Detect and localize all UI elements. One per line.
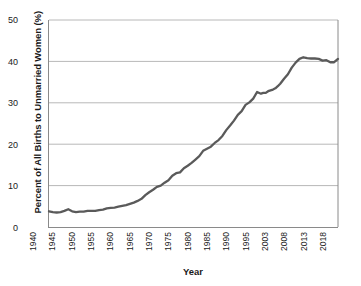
plot-area (48, 20, 338, 228)
y-tick-label: 40 (0, 57, 18, 67)
y-tick-label: 10 (0, 181, 18, 191)
data-line-0 (49, 57, 338, 212)
chart-container: Percent of All Births to Unmarried Women… (0, 0, 361, 286)
y-tick-label: 50 (0, 15, 18, 25)
y-tick-label: 20 (0, 140, 18, 150)
data-series-layer (49, 20, 338, 227)
x-axis-title: Year (48, 266, 338, 277)
y-axis-title: Percent of All Births to Unmarried Women… (32, 14, 43, 214)
y-tick-label: 30 (0, 98, 18, 108)
y-tick-label: 0 (0, 223, 18, 233)
x-tick-label: 2018 (318, 232, 358, 260)
